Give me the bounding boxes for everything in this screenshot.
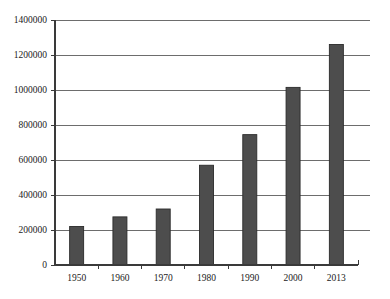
y-tick-label: 400000 [19,190,48,200]
y-tick-label: 800000 [19,120,48,130]
y-tick-label: 1200000 [14,50,48,60]
y-tick-label: 600000 [19,155,48,165]
bar [329,45,343,266]
bars-group [70,45,344,266]
y-tick-label: 0 [42,260,47,270]
x-tick-label: 1960 [110,273,129,283]
x-tick-label: 1950 [67,273,86,283]
x-tick-label: 2000 [284,273,303,283]
bar [113,217,127,265]
chart-canvas: 0200000400000600000800000100000012000001… [0,0,390,299]
x-tick-labels: 1950196019701980199020002013 [67,273,346,283]
y-tick-labels: 0200000400000600000800000100000012000001… [14,15,48,270]
bar-chart: 0200000400000600000800000100000012000001… [0,0,390,299]
x-tick-label: 2013 [327,273,346,283]
bar [200,165,214,265]
x-tick-label: 1990 [240,273,259,283]
bar [70,227,84,266]
x-tick-label: 1970 [154,273,173,283]
y-tick-label: 1000000 [14,85,48,95]
bar [286,87,300,265]
y-tick-label: 1400000 [14,15,48,25]
y-tick-label: 200000 [19,225,48,235]
y-axis [51,20,55,265]
bar [156,209,170,265]
bar [243,135,257,265]
x-tick-label: 1980 [197,273,216,283]
